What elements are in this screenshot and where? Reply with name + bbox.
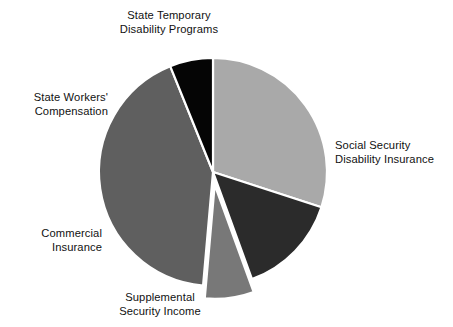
slice-label-line-1: Commercial bbox=[2, 227, 102, 241]
slice-label-line-2: Compensation bbox=[4, 105, 108, 119]
pie-chart: State Temporary Disability Programs Stat… bbox=[0, 0, 453, 327]
slice-label-line-2: Security Income bbox=[89, 305, 231, 319]
slice-label-line-2: Disability Insurance bbox=[335, 153, 453, 167]
slice-label-line-1: State Temporary bbox=[96, 9, 242, 23]
slice-label-supplemental-security-income: Supplemental Security Income bbox=[89, 291, 231, 318]
slice-label-state-workers-compensation: State Workers' Compensation bbox=[4, 91, 108, 118]
slice-label-social-security-disability-insurance: Social Security Disability Insurance bbox=[335, 139, 453, 166]
slice-label-line-2: Insurance bbox=[2, 241, 102, 255]
slice-label-line-1: Supplemental bbox=[89, 291, 231, 305]
slice-label-line-1: State Workers' bbox=[4, 91, 108, 105]
slice-label-line-2: Disability Programs bbox=[96, 23, 242, 37]
slice-label-commercial-insurance: Commercial Insurance bbox=[2, 227, 102, 254]
slice-label-state-temporary-disability-programs: State Temporary Disability Programs bbox=[96, 9, 242, 36]
slice-label-line-1: Social Security bbox=[335, 139, 453, 153]
